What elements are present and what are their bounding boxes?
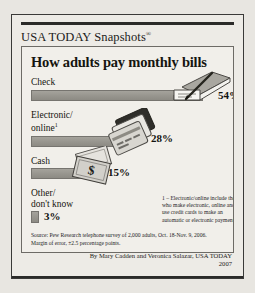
byline: By Mary Cadden and Veronica Salazar, USA… (90, 252, 232, 269)
bar-row-check: Check 54% (22, 77, 233, 101)
source-line: Source: Pew Research telephone survey of… (31, 232, 224, 247)
cash-bills-icon: $ (66, 146, 120, 194)
chart-title: How adults pay monthly bills (31, 54, 233, 71)
bar-row-electronic: Electronic/online1 28% (22, 110, 233, 147)
bar-label-cash: Cash (31, 156, 233, 167)
masthead: USA TODAY Snapshots® (21, 22, 234, 44)
checkbook-pen-icon (172, 70, 232, 107)
brand-text: USA TODAY Snapshots (21, 30, 146, 44)
bar-label-other-line1: Other/ (31, 188, 55, 198)
snapshot-frame: USA TODAY Snapshots® How adults pay mont… (11, 14, 244, 279)
byline-authors: By Mary Cadden and Veronica Salazar, USA… (90, 252, 232, 261)
bar-value-other: 3% (44, 210, 61, 222)
bar-label-electronic-line2: online (31, 123, 55, 133)
brand-title: USA TODAY Snapshots® (21, 28, 234, 44)
chart-panel: How adults pay monthly bills Check 54% (21, 46, 234, 253)
masthead-rule (21, 22, 234, 25)
bar-label-other-line2: don't know (31, 199, 73, 209)
bottom-rule (12, 276, 243, 278)
footnote: 1 – Electronic/online include those who … (162, 195, 234, 224)
bar-row-cash: Cash 15% $ (22, 156, 233, 180)
registered-trademark-icon: ® (146, 30, 151, 38)
bar-chart: Check 54% Electronic/o (22, 77, 233, 253)
bar-label-electronic-line1: Electronic/ (31, 110, 73, 120)
bar-fill-other (31, 211, 39, 223)
footnote-marker: 1 (55, 122, 58, 128)
byline-year: 2007 (90, 260, 232, 269)
